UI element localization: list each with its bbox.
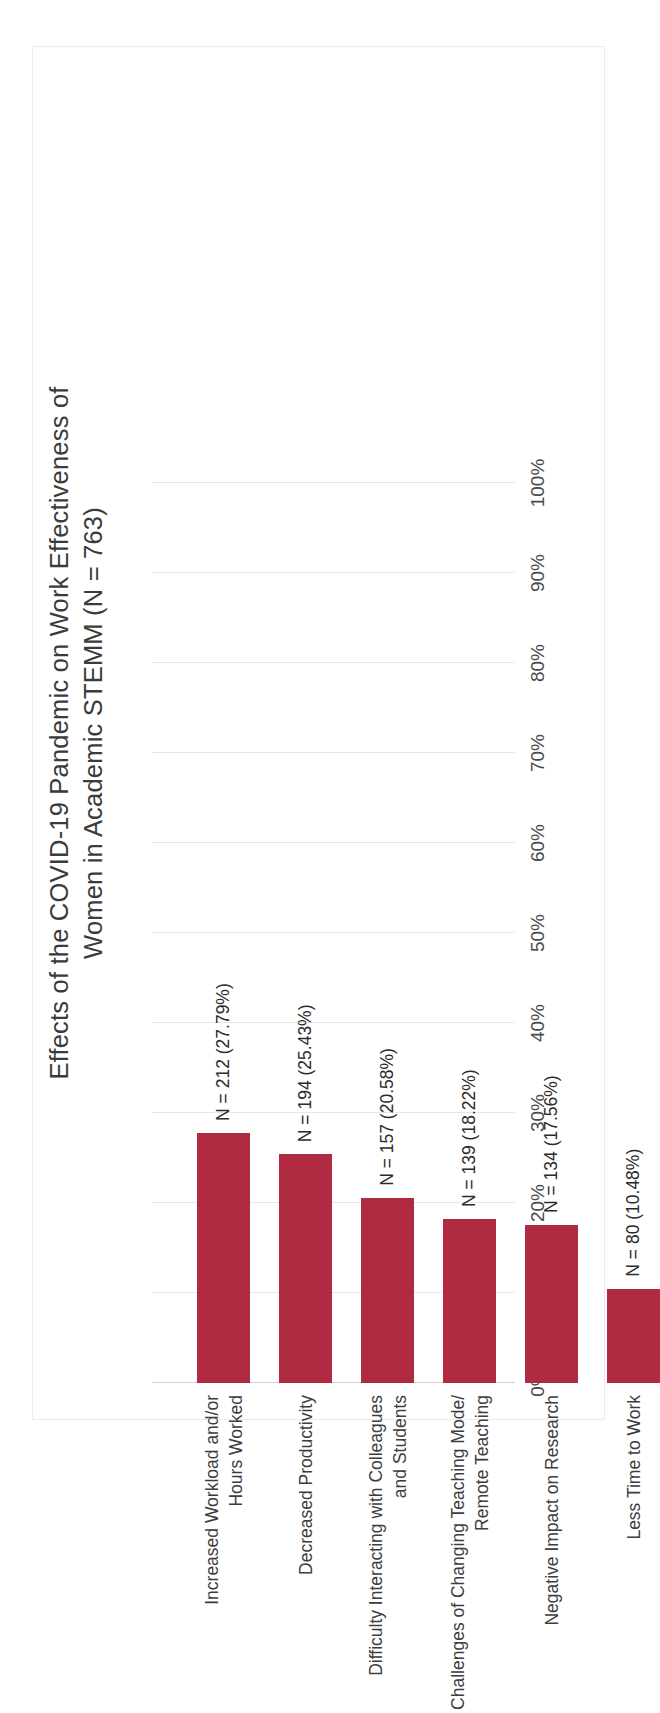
bar bbox=[607, 1289, 660, 1383]
axis-tick-label: 70% bbox=[527, 727, 549, 779]
bar bbox=[525, 1225, 578, 1383]
gridline-100 bbox=[152, 482, 515, 483]
axis-tick-label: 60% bbox=[527, 817, 549, 869]
category-label: Negative Impact on Research bbox=[540, 1395, 564, 1713]
category-label: Challenges of Changing Teaching Mode/ Re… bbox=[446, 1395, 494, 1713]
bar bbox=[279, 1154, 332, 1383]
bar-value-label: N = 157 (20.58%) bbox=[377, 1048, 398, 1186]
gridline-60 bbox=[152, 842, 515, 843]
category-label: Less Time to Work bbox=[622, 1395, 646, 1713]
gridline-90 bbox=[152, 572, 515, 573]
plot-area: 0%10%20%30%40%50%60%70%80%90%100%N = 212… bbox=[32, 46, 605, 1420]
bar bbox=[361, 1198, 414, 1383]
bar bbox=[443, 1219, 496, 1383]
bar bbox=[197, 1133, 250, 1383]
chart-figure: Effects of the COVID-19 Pandemic on Work… bbox=[32, 46, 605, 1420]
category-label: Difficulty Interacting with Colleagues a… bbox=[364, 1395, 412, 1713]
bar-value-label: N = 212 (27.79%) bbox=[213, 983, 234, 1121]
gridline-70 bbox=[152, 752, 515, 753]
category-label: Decreased Productivity bbox=[294, 1395, 318, 1713]
axis-tick-label: 50% bbox=[527, 907, 549, 959]
axis-tick-label: 40% bbox=[527, 997, 549, 1049]
category-label: Increased Workload and/or Hours Worked bbox=[200, 1395, 248, 1713]
axis-tick-label: 80% bbox=[527, 637, 549, 689]
gridline-80 bbox=[152, 662, 515, 663]
gridline-50 bbox=[152, 932, 515, 933]
bar-value-label: N = 139 (18.22%) bbox=[459, 1069, 480, 1207]
bar-value-label: N = 134 (17.56%) bbox=[541, 1075, 562, 1213]
gridline-40 bbox=[152, 1022, 515, 1023]
axis-tick-label: 100% bbox=[527, 457, 549, 509]
bar-value-label: N = 194 (25.43%) bbox=[295, 1004, 316, 1142]
bar-value-label: N = 80 (10.48%) bbox=[623, 1149, 644, 1277]
axis-tick-label: 90% bbox=[527, 547, 549, 599]
